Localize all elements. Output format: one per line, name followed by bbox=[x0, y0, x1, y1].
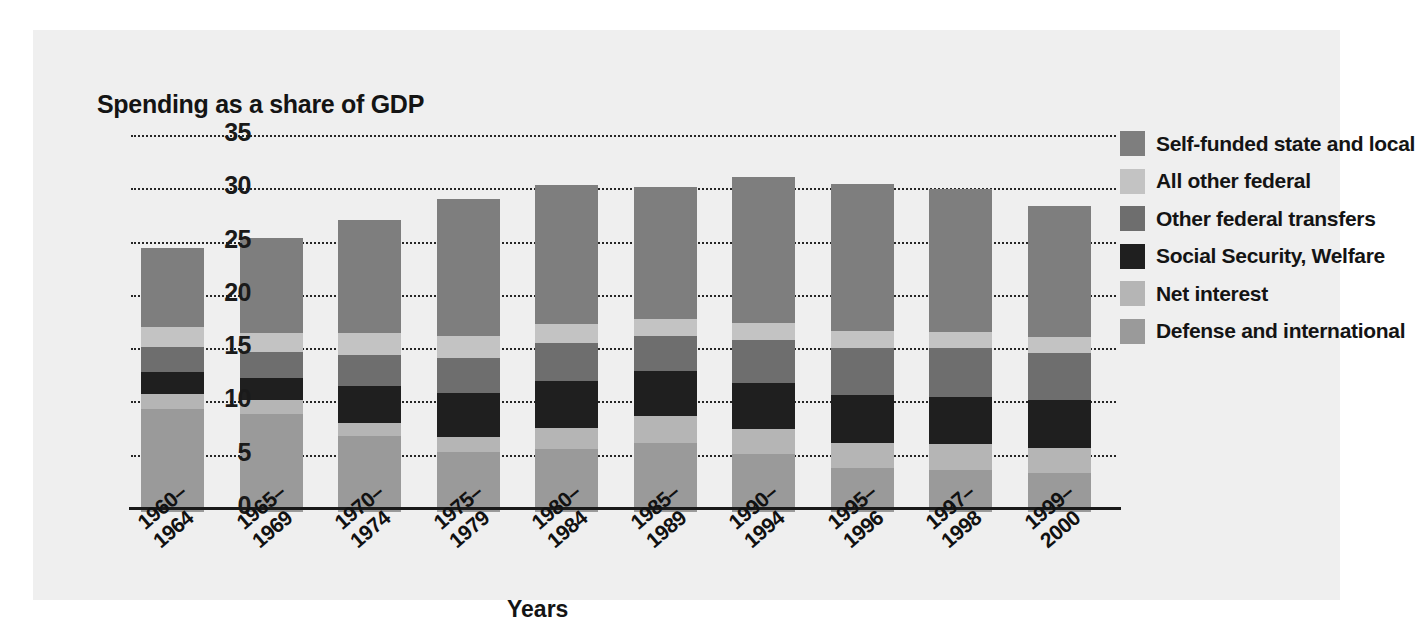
bar-6 bbox=[634, 187, 697, 512]
legend-item: All other federal bbox=[1120, 165, 1370, 198]
legend-label: All other federal bbox=[1156, 169, 1311, 193]
bar-segment bbox=[929, 189, 992, 332]
legend-item: Defense and international bbox=[1120, 315, 1370, 348]
bar-segment bbox=[1028, 206, 1091, 337]
bar-segment bbox=[634, 336, 697, 371]
bar-3 bbox=[338, 220, 401, 512]
bar-segment bbox=[535, 428, 598, 449]
bar-segment bbox=[929, 444, 992, 471]
y-tick-label: 15 bbox=[191, 331, 251, 360]
bar-segment bbox=[929, 348, 992, 397]
bar-segment bbox=[535, 324, 598, 342]
bar-segment bbox=[831, 395, 894, 443]
y-tick-label: 25 bbox=[191, 225, 251, 254]
y-tick-label: 5 bbox=[191, 438, 251, 467]
legend-item: Other federal transfers bbox=[1120, 202, 1370, 235]
bar-segment bbox=[634, 187, 697, 319]
bar-segment bbox=[1028, 448, 1091, 473]
legend-swatch bbox=[1120, 244, 1145, 269]
bar-segment bbox=[338, 220, 401, 333]
bar-segment bbox=[831, 184, 894, 331]
plot-area bbox=[131, 130, 1116, 512]
bar-segment bbox=[1028, 337, 1091, 353]
bar-segment bbox=[634, 371, 697, 416]
legend-label: Other federal transfers bbox=[1156, 207, 1376, 231]
bar-segment bbox=[437, 336, 500, 357]
legend-label: Self-funded state and local bbox=[1156, 132, 1415, 156]
bar-segment bbox=[831, 331, 894, 348]
legend-swatch bbox=[1120, 319, 1145, 344]
bar-segment bbox=[732, 340, 795, 383]
bar-segment bbox=[732, 429, 795, 455]
y-axis-title: Spending as a share of GDP bbox=[97, 90, 424, 119]
x-axis-title: Years bbox=[507, 596, 568, 623]
legend-item: Self-funded state and local bbox=[1120, 127, 1370, 160]
bar-segment bbox=[338, 333, 401, 355]
legend-swatch bbox=[1120, 206, 1145, 231]
bar-segment bbox=[535, 381, 598, 428]
bar-segment bbox=[535, 185, 598, 325]
legend-swatch bbox=[1120, 169, 1145, 194]
bar-segment bbox=[1028, 353, 1091, 400]
legend: Self-funded state and localAll other fed… bbox=[1120, 127, 1370, 352]
bar-segment bbox=[338, 423, 401, 437]
bar-segment bbox=[732, 383, 795, 429]
bar-segment bbox=[1028, 400, 1091, 448]
y-tick-label: 20 bbox=[191, 278, 251, 307]
bar-segment bbox=[929, 332, 992, 348]
bar-segment bbox=[634, 416, 697, 443]
bar-segment bbox=[338, 386, 401, 422]
bar-10 bbox=[1028, 206, 1091, 512]
bar-segment bbox=[732, 177, 795, 323]
bar-8 bbox=[831, 184, 894, 512]
legend-label: Defense and international bbox=[1156, 319, 1405, 343]
bar-segment bbox=[929, 397, 992, 444]
y-tick-label: 35 bbox=[191, 118, 251, 147]
bar-segment bbox=[535, 343, 598, 381]
bar-7 bbox=[732, 177, 795, 512]
bar-4 bbox=[437, 199, 500, 512]
bar-segment bbox=[437, 199, 500, 336]
bar-segment bbox=[634, 319, 697, 336]
legend-swatch bbox=[1120, 281, 1145, 306]
bar-9 bbox=[929, 189, 992, 512]
bar-5 bbox=[535, 185, 598, 512]
bar-segment bbox=[831, 443, 894, 469]
y-tick-label: 30 bbox=[191, 171, 251, 200]
legend-item: Social Security, Welfare bbox=[1120, 240, 1370, 273]
legend-label: Social Security, Welfare bbox=[1156, 244, 1385, 268]
legend-label: Net interest bbox=[1156, 282, 1268, 306]
bar-segment bbox=[437, 437, 500, 452]
bar-segment bbox=[437, 358, 500, 393]
bar-segment bbox=[732, 323, 795, 340]
gridline bbox=[131, 135, 1116, 137]
y-tick-label: 10 bbox=[191, 384, 251, 413]
legend-swatch bbox=[1120, 131, 1145, 156]
bar-segment bbox=[437, 393, 500, 438]
legend-item: Net interest bbox=[1120, 277, 1370, 310]
bar-segment bbox=[831, 348, 894, 395]
bar-segment bbox=[338, 355, 401, 386]
chart-panel: Spending as a share of GDP 0510152025303… bbox=[33, 30, 1340, 600]
